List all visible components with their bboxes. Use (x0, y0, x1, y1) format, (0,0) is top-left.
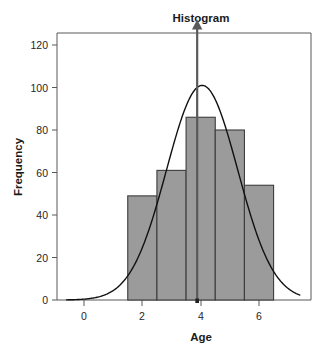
chart-title: Histogram (173, 12, 230, 24)
x-tick-label-0: 0 (81, 310, 87, 322)
y-tick-label-20: 20 (36, 252, 48, 264)
y-tick-label-100: 100 (30, 82, 48, 94)
x-axis-title: Age (190, 331, 212, 343)
histogram-figure: Histogram 0 20 40 60 80 100 120 Frequenc… (0, 0, 332, 349)
y-tick-label-120: 120 (30, 39, 48, 51)
y-axis-tick-labels: 0 20 40 60 80 100 120 (30, 39, 48, 306)
y-tick-label-80: 80 (36, 124, 48, 136)
histogram-chart: Histogram 0 20 40 60 80 100 120 Frequenc… (0, 0, 332, 349)
x-tick-label-4: 4 (198, 310, 204, 322)
y-tick-label-0: 0 (42, 294, 48, 306)
y-axis-title: Frequency (12, 137, 24, 196)
y-tick-label-40: 40 (36, 209, 48, 221)
y-axis-ticks (52, 45, 57, 300)
x-tick-label-2: 2 (139, 310, 145, 322)
x-tick-label-6: 6 (256, 310, 262, 322)
histogram-bar (215, 130, 244, 300)
arrow-foot-marker (195, 299, 199, 304)
histogram-bar (186, 117, 215, 300)
x-axis-tick-labels: 0 2 4 6 (81, 310, 262, 322)
x-axis-ticks (84, 300, 259, 306)
y-tick-label-60: 60 (36, 167, 48, 179)
histogram-bar (244, 185, 273, 300)
